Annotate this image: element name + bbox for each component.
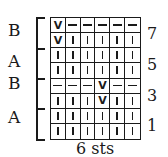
purl-stitch-cell (66, 79, 81, 94)
knit-stitch-cell (81, 124, 96, 139)
knit-stitch-cell (110, 109, 125, 124)
knit-stitch-cell (81, 48, 96, 63)
knit-stitch-cell (95, 48, 110, 63)
knit-stitch-cell (81, 33, 96, 48)
knit-stitch-cell (125, 33, 140, 48)
purl-stitch-cell (81, 18, 96, 33)
row-number-1: 1 (147, 118, 157, 134)
purl-stitch-cell (125, 79, 140, 94)
slip-stitch-cell: V (51, 33, 66, 48)
slip-stitch-cell: V (95, 79, 110, 94)
slip-stitch-cell: V (95, 94, 110, 109)
knit-stitch-cell (125, 48, 140, 63)
knit-stitch-cell (51, 48, 66, 63)
knit-stitch-cell (125, 94, 140, 109)
row-number-7: 7 (147, 26, 157, 42)
knit-stitch-cell (66, 124, 81, 139)
purl-stitch-cell (81, 79, 96, 94)
section-label-a: A (8, 109, 20, 126)
bracket-tick (36, 17, 45, 19)
section-label-b: B (8, 22, 21, 39)
knit-stitch-cell (66, 63, 81, 78)
knit-stitch-cell (95, 63, 110, 78)
knit-stitch-cell (51, 63, 66, 78)
bracket-tick (36, 78, 45, 80)
knit-stitch-cell (51, 109, 66, 124)
stitch-count-label: 6 sts (76, 141, 114, 157)
knit-stitch-cell (110, 33, 125, 48)
slip-stitch-cell: V (51, 18, 66, 33)
knit-stitch-cell (81, 63, 96, 78)
knit-stitch-cell (95, 124, 110, 139)
purl-stitch-cell (125, 18, 140, 33)
knit-stitch-cell (125, 63, 140, 78)
knit-stitch-cell (110, 48, 125, 63)
bracket-tick (36, 48, 45, 50)
knit-stitch-cell (51, 124, 66, 139)
bracket-tick (36, 108, 45, 110)
knit-stitch-cell (125, 109, 140, 124)
knit-stitch-cell (81, 109, 96, 124)
knit-stitch-cell (51, 94, 66, 109)
knit-stitch-cell (125, 124, 140, 139)
purl-stitch-cell (95, 18, 110, 33)
purl-stitch-cell (110, 18, 125, 33)
knit-stitch-cell (95, 33, 110, 48)
bracket-tick (36, 139, 45, 141)
section-label-a: A (8, 53, 20, 70)
knit-stitch-cell (110, 94, 125, 109)
knit-stitch-cell (66, 94, 81, 109)
row-number-3: 3 (147, 88, 157, 104)
purl-stitch-cell (66, 18, 81, 33)
knit-stitch-cell (66, 33, 81, 48)
section-label-b: B (8, 75, 21, 92)
purl-stitch-cell (51, 79, 66, 94)
knit-stitch-cell (110, 63, 125, 78)
knit-stitch-cell (110, 124, 125, 139)
row-number-5: 5 (147, 57, 157, 73)
knit-stitch-cell (81, 94, 96, 109)
purl-stitch-cell (110, 79, 125, 94)
knit-stitch-cell (66, 109, 81, 124)
stitch-chart-grid: VVVV (50, 17, 141, 140)
knit-stitch-cell (66, 48, 81, 63)
knit-stitch-cell (95, 109, 110, 124)
